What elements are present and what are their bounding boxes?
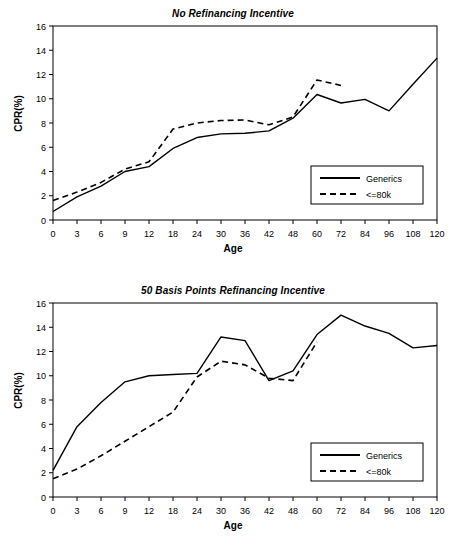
y-tick-label: 10 [36, 371, 46, 381]
y-tick-label: 10 [36, 94, 46, 104]
x-tick-label: 72 [336, 506, 346, 516]
x-tick-label: 0 [50, 229, 55, 239]
y-tick-label: 2 [41, 191, 46, 201]
y-tick-label: 0 [41, 493, 46, 503]
y-tick-label: 16 [36, 299, 46, 309]
plot-area: 0246810121416036912182430364248607284961… [0, 277, 466, 549]
x-tick-label: 24 [192, 506, 202, 516]
series-line-80k [53, 80, 341, 201]
y-tick-label: 14 [36, 323, 46, 333]
x-tick-label: 72 [336, 229, 346, 239]
x-tick-label: 30 [216, 506, 226, 516]
y-tick-label: 16 [36, 22, 46, 32]
chart-panel-no-refinancing-incentive: No Refinancing Incentive CPR(%) Age 0246… [0, 0, 466, 272]
x-tick-label: 36 [240, 229, 250, 239]
x-tick-label: 120 [429, 229, 444, 239]
x-tick-label: 96 [384, 229, 394, 239]
chart-panel-50-basis-points-refinancing-incentive: 50 Basis Points Refinancing Incentive CP… [0, 277, 466, 549]
x-tick-label: 60 [312, 229, 322, 239]
y-tick-label: 12 [36, 70, 46, 80]
figure-page: No Refinancing Incentive CPR(%) Age 0246… [0, 0, 466, 549]
y-tick-label: 8 [41, 119, 46, 129]
x-tick-label: 48 [288, 229, 298, 239]
x-tick-label: 84 [360, 506, 370, 516]
x-tick-label: 12 [144, 229, 154, 239]
y-tick-label: 4 [41, 444, 46, 454]
y-tick-label: 12 [36, 347, 46, 357]
y-tick-label: 14 [36, 46, 46, 56]
legend-label: <=80k [366, 190, 392, 200]
x-tick-label: 60 [312, 506, 322, 516]
x-tick-label: 108 [405, 506, 420, 516]
x-tick-label: 3 [74, 229, 79, 239]
legend-label: Generics [366, 451, 403, 461]
y-tick-label: 4 [41, 167, 46, 177]
x-tick-label: 48 [288, 506, 298, 516]
y-tick-label: 8 [41, 396, 46, 406]
x-tick-label: 6 [98, 229, 103, 239]
x-tick-label: 120 [429, 506, 444, 516]
x-tick-label: 6 [98, 506, 103, 516]
x-tick-label: 36 [240, 506, 250, 516]
x-tick-label: 42 [264, 506, 274, 516]
x-tick-label: 0 [50, 506, 55, 516]
x-tick-label: 9 [122, 229, 127, 239]
y-tick-label: 6 [41, 420, 46, 430]
x-tick-label: 84 [360, 229, 370, 239]
x-tick-label: 12 [144, 506, 154, 516]
x-tick-label: 42 [264, 229, 274, 239]
x-tick-label: 24 [192, 229, 202, 239]
x-tick-label: 3 [74, 506, 79, 516]
y-tick-label: 2 [41, 468, 46, 478]
x-tick-label: 96 [384, 506, 394, 516]
x-tick-label: 108 [405, 229, 420, 239]
plot-area: 0246810121416036912182430364248607284961… [0, 0, 466, 272]
x-tick-label: 18 [168, 229, 178, 239]
x-tick-label: 9 [122, 506, 127, 516]
y-tick-label: 6 [41, 143, 46, 153]
x-tick-label: 30 [216, 229, 226, 239]
legend-label: Generics [366, 174, 403, 184]
legend-label: <=80k [366, 467, 392, 477]
y-tick-label: 0 [41, 216, 46, 226]
x-tick-label: 18 [168, 506, 178, 516]
